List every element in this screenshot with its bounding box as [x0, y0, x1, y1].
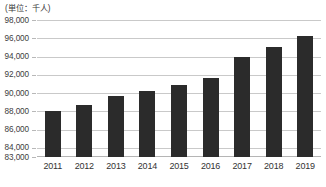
bar: [234, 57, 250, 157]
y-axis-tick-label: 90,000: [5, 89, 29, 98]
unit-caption: (単位：千人): [5, 3, 50, 14]
y-axis-tick-mark: [32, 38, 36, 39]
y-axis-tick-mark: [32, 57, 36, 58]
y-axis-tick-label: 86,000: [5, 125, 29, 134]
bar: [203, 78, 219, 157]
bar-slot: [132, 20, 164, 157]
bar: [297, 36, 313, 157]
x-axis-tick-label: 2019: [289, 160, 321, 172]
bar: [139, 91, 155, 157]
bar: [76, 105, 92, 157]
bar-slot: [69, 20, 101, 157]
bar: [45, 111, 61, 157]
bar-slot: [289, 20, 321, 157]
y-axis-tick-label: 98,000: [5, 16, 29, 25]
bar-slot: [100, 20, 132, 157]
y-axis-tick-label: 94,000: [5, 52, 29, 61]
bar: [171, 85, 187, 157]
bar-slot: [163, 20, 195, 157]
bar-slot: [226, 20, 258, 157]
x-axis-tick-label: 2012: [69, 160, 101, 172]
bar: [266, 47, 282, 157]
y-axis-tick-mark: [32, 111, 36, 112]
plot-area: 83,00084,00086,00088,00090,00092,00094,0…: [37, 20, 321, 157]
x-axis-labels: 201120122013201420152016201720182019: [37, 160, 321, 174]
x-axis-tick-label: 2018: [258, 160, 290, 172]
x-axis-tick-label: 2015: [163, 160, 195, 172]
x-axis-tick-label: 2016: [195, 160, 227, 172]
y-axis-tick-label: 83,000: [5, 153, 29, 162]
y-axis-tick-mark: [32, 130, 36, 131]
y-axis-tick-label: 88,000: [5, 107, 29, 116]
bar-chart: (単位：千人) 83,00084,00086,00088,00090,00092…: [0, 0, 326, 187]
bar-slot: [37, 20, 69, 157]
y-axis-tick-label: 84,000: [5, 143, 29, 152]
y-axis-tick-label: 96,000: [5, 34, 29, 43]
bar-slot: [195, 20, 227, 157]
x-axis-tick-label: 2017: [226, 160, 258, 172]
y-axis-tick-label: 92,000: [5, 70, 29, 79]
y-axis-tick-mark: [32, 75, 36, 76]
bar-slot: [258, 20, 290, 157]
bar: [108, 96, 124, 157]
x-axis-tick-label: 2011: [37, 160, 69, 172]
bars: [37, 20, 321, 157]
x-axis-tick-label: 2013: [100, 160, 132, 172]
x-axis-tick-label: 2014: [132, 160, 164, 172]
y-axis-tick-mark: [32, 20, 36, 21]
y-axis-tick-mark: [32, 148, 36, 149]
y-axis-tick-mark: [32, 157, 36, 158]
y-axis-tick-mark: [32, 93, 36, 94]
